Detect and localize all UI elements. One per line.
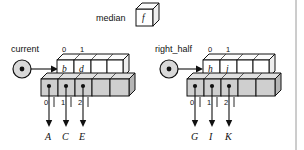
right-half-pointer-arrow bbox=[178, 66, 203, 73]
left-bottom-cells bbox=[41, 79, 129, 96]
left-top-row-top bbox=[57, 54, 129, 60]
left-bottom-row-top bbox=[41, 73, 135, 79]
left-top-index-0: 0 bbox=[62, 45, 66, 54]
right-half-label: right_half bbox=[155, 44, 193, 54]
right-bottom-cell-4 bbox=[256, 79, 275, 96]
right-top-index-1: 1 bbox=[226, 45, 230, 54]
left-bottom-index-0: 0 bbox=[44, 98, 48, 107]
right-group: right_half 0 1 h j bbox=[155, 44, 281, 142]
current-pointer bbox=[13, 60, 31, 78]
left-target-2: E bbox=[78, 131, 85, 142]
left-top-index-1: 1 bbox=[80, 45, 84, 54]
right-top-index-0: 0 bbox=[208, 45, 212, 54]
median-label: median bbox=[96, 13, 126, 23]
left-bottom-cell-4 bbox=[110, 79, 129, 96]
right-bottom-cells bbox=[187, 79, 275, 96]
median-group: median f bbox=[96, 3, 159, 26]
current-label: current bbox=[11, 44, 40, 54]
right-top-row-top bbox=[203, 54, 275, 60]
right-target-0: G bbox=[191, 131, 198, 142]
right-target-2: K bbox=[224, 131, 233, 142]
left-target-1: C bbox=[62, 131, 69, 142]
diagram-canvas: median f current 0 1 bbox=[0, 0, 304, 150]
left-bottom-index-2: 2 bbox=[78, 98, 82, 107]
right-bottom-index-0: 0 bbox=[190, 98, 194, 107]
right-target-1: I bbox=[208, 131, 213, 142]
left-group: current 0 1 b d bbox=[11, 44, 135, 142]
left-target-0: A bbox=[44, 131, 52, 142]
right-bottom-row-top bbox=[187, 73, 281, 79]
current-pointer-arrow bbox=[31, 66, 58, 73]
left-bottom-index-1: 1 bbox=[61, 98, 65, 107]
left-bottom-cell-3 bbox=[92, 79, 110, 96]
right-bottom-cell-3 bbox=[238, 79, 256, 96]
right-bottom-index-1: 1 bbox=[207, 98, 211, 107]
right-bottom-index-2: 2 bbox=[224, 98, 228, 107]
right-half-pointer bbox=[160, 60, 178, 78]
